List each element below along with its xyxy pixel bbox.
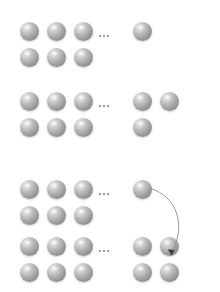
ellipsis-dot [107,193,109,195]
sphere [133,22,152,41]
ellipsis-dot [99,35,101,37]
ellipsis-dot [107,105,109,107]
sphere [133,263,152,282]
ellipsis-dot [103,35,105,37]
sphere [74,206,93,225]
ellipsis-icon [99,35,109,37]
ellipsis-dot [103,105,105,107]
sphere [47,48,66,67]
sphere [133,118,152,137]
diagram-canvas [0,0,220,292]
ellipsis-dot [103,193,105,195]
ellipsis-dot [107,250,109,252]
sphere [20,22,39,41]
sphere [47,118,66,137]
sphere [20,237,39,256]
ellipsis-icon [99,250,109,252]
ellipsis-dot [99,193,101,195]
sphere [160,92,179,111]
sphere [47,237,66,256]
sphere [20,263,39,282]
sphere-arrow-source [133,180,152,199]
sphere [47,22,66,41]
sphere [47,92,66,111]
sphere [74,263,93,282]
sphere [160,237,179,256]
sphere [20,92,39,111]
ellipsis-dot [107,35,109,37]
ellipsis-dot [99,250,101,252]
sphere-arrow-target [160,263,179,282]
ellipsis-dot [103,250,105,252]
sphere [133,92,152,111]
sphere [74,118,93,137]
sphere [74,22,93,41]
sphere [20,48,39,67]
ellipsis-icon [99,193,109,195]
sphere [47,206,66,225]
sphere [133,237,152,256]
sphere [47,263,66,282]
sphere [74,48,93,67]
sphere [74,92,93,111]
ellipsis-dot [99,105,101,107]
sphere [47,180,66,199]
ellipsis-icon [99,105,109,107]
sphere [20,206,39,225]
sphere [74,180,93,199]
sphere [20,118,39,137]
sphere [20,180,39,199]
sphere [74,237,93,256]
